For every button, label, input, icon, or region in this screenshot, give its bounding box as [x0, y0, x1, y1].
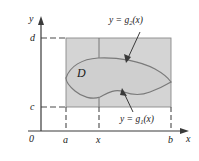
origin-label: 0: [29, 134, 34, 144]
tick-label-c: c: [30, 102, 34, 112]
curve-g2-label: y = g2(x): [109, 16, 143, 26]
tick-label-d: d: [30, 33, 35, 43]
tick-label-a: a: [63, 135, 68, 145]
region-d-label: D: [77, 67, 86, 79]
curve-g1-label-arg: (x): [143, 114, 154, 124]
tick-label-x: x: [96, 135, 100, 145]
curve-g2-label-y: y =: [109, 15, 124, 25]
y-axis-label: y: [29, 14, 33, 24]
figure-region-type-ii: y x 0 d c a x b D y = g2(x) y = g1(x): [0, 0, 199, 161]
y-axis-arrowhead: [38, 16, 44, 25]
curve-g1-label: y = g1(x): [120, 115, 154, 125]
curve-g2-label-sub: 2: [129, 19, 132, 26]
curve-g1-label-sub: 1: [140, 118, 143, 125]
curve-g2-label-arg: (x): [132, 15, 143, 25]
tick-label-b: b: [168, 135, 173, 145]
curve-g1-label-y: y =: [120, 114, 135, 124]
x-axis-label: x: [186, 134, 190, 144]
